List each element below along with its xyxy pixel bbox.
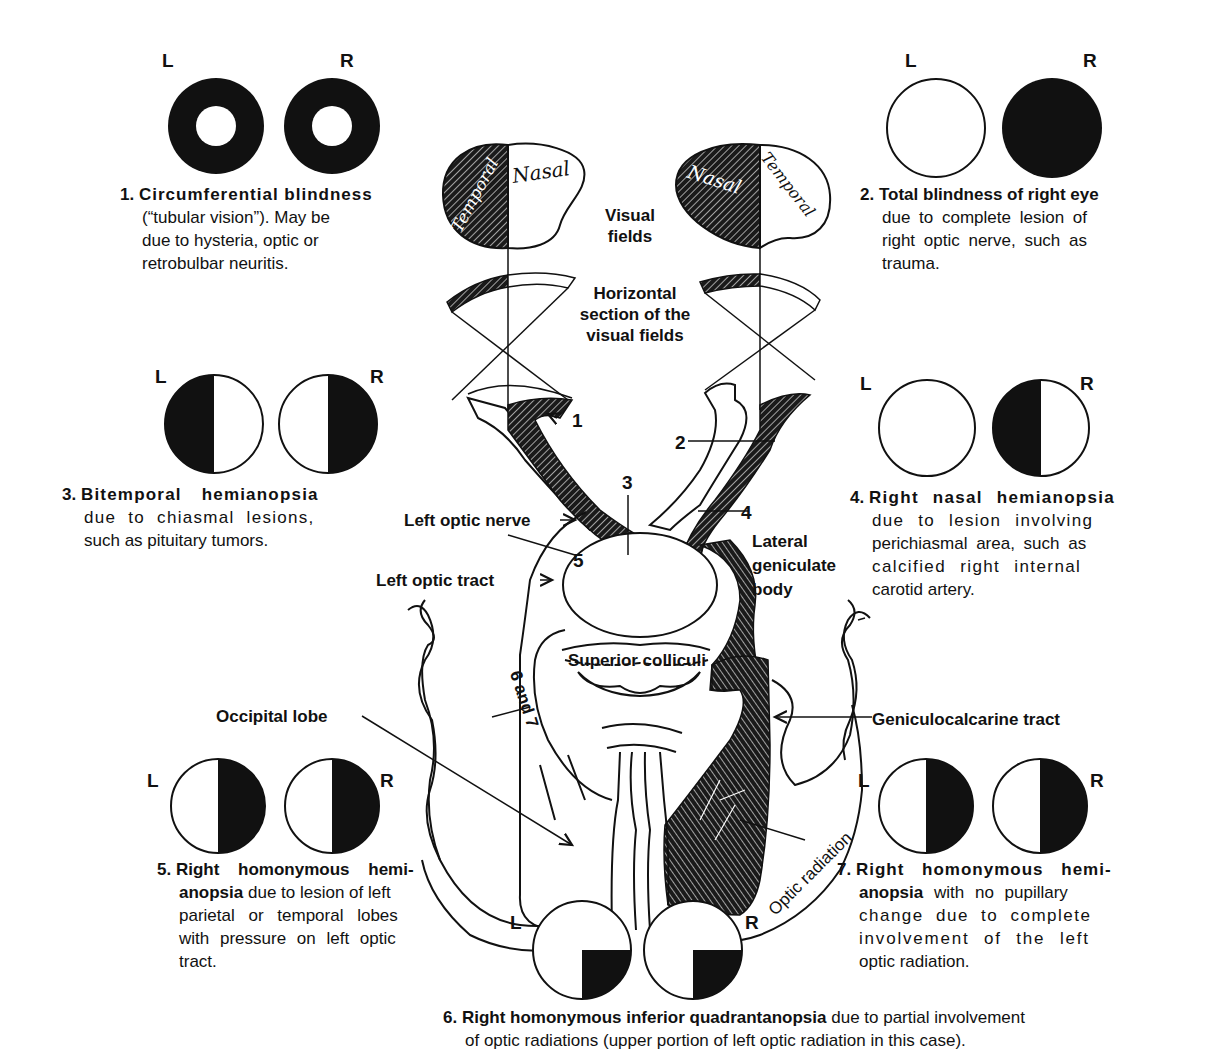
lesion-5-right-field bbox=[280, 756, 384, 856]
lateral-geniculate-body-label: Lateral geniculate body bbox=[752, 530, 836, 602]
lesion-5-left-eye-label: L bbox=[147, 770, 159, 792]
left-optic-nerve-label: Left optic nerve bbox=[404, 510, 531, 531]
geniculocalcarine-tract bbox=[664, 656, 770, 915]
occipital-lobe-label: Occipital lobe bbox=[216, 706, 327, 727]
marker-2: 2 bbox=[675, 432, 686, 453]
lesion-7-left-field bbox=[874, 756, 978, 856]
lesion-2-left-eye-label: L bbox=[905, 50, 917, 72]
lesion-6-left-eye-label: L bbox=[510, 912, 522, 934]
lesion-1-left-field bbox=[166, 74, 266, 178]
lesion-3-right-field bbox=[276, 372, 380, 476]
horizontal-section-label: Horizontal section of the visual fields bbox=[560, 283, 710, 346]
lesion-3-left-field bbox=[162, 372, 266, 476]
lesion-5-left-field bbox=[166, 756, 270, 856]
superior-colliculi-label: Superior colliculi bbox=[568, 650, 706, 671]
lesion-5-caption: 5. Right homonymous hemi- anopsia due to… bbox=[157, 858, 457, 973]
lesion-1-caption: 1. Circumferential blindness (“tubular v… bbox=[120, 183, 420, 275]
chiasm-oval bbox=[563, 533, 717, 637]
marker-3: 3 bbox=[622, 472, 633, 493]
lesion-1-left-eye-label: L bbox=[162, 50, 174, 72]
lesion-4-caption: 4. Right nasal hemianopsia due to lesion… bbox=[850, 486, 1160, 601]
lesion-2-right-eye-label: R bbox=[1083, 50, 1097, 72]
lesion-1-right-field bbox=[282, 74, 382, 178]
lesion-7-right-field bbox=[988, 756, 1092, 856]
lesion-2-right-field bbox=[1000, 76, 1104, 180]
lesion-4-right-field bbox=[990, 376, 1092, 480]
left-cortex-fold bbox=[408, 606, 440, 860]
left-optic-tract-label: Left optic tract bbox=[376, 570, 494, 591]
marker-5: 5 bbox=[573, 550, 584, 571]
left-horizontal-section bbox=[447, 273, 575, 400]
lesion-3-caption: 3. Bitemporal hemianopsia due to chiasma… bbox=[62, 483, 362, 552]
lesion-2-left-field bbox=[884, 76, 988, 180]
lesion-7-left-eye-label: L bbox=[858, 770, 870, 792]
lesion-6-right-eye-label: R bbox=[745, 912, 759, 934]
lesion-4-left-eye-label: L bbox=[860, 373, 872, 395]
lesion-7-caption: 7. Right homonymous hemi- anopsia with n… bbox=[837, 858, 1147, 973]
marker-1: 1 bbox=[572, 410, 583, 431]
lesion-4-left-field bbox=[876, 376, 978, 480]
lesion-6-right-field bbox=[641, 898, 745, 1002]
visual-fields-label: Visual fields bbox=[590, 205, 670, 247]
lesion-2-caption: 2. Total blindness of right eye due to c… bbox=[860, 183, 1160, 275]
geniculocalcarine-tract-label: Geniculocalcarine tract bbox=[872, 709, 1060, 730]
lesion-7-right-eye-label: R bbox=[1090, 770, 1104, 792]
lesion-6-left-field bbox=[530, 898, 634, 1002]
lesion-1-right-eye-label: R bbox=[340, 50, 354, 72]
marker-4: 4 bbox=[741, 502, 752, 523]
right-cortex-fold bbox=[843, 612, 870, 760]
lesion-6-caption: 6. Right homonymous inferior quadrantano… bbox=[443, 1006, 1203, 1052]
